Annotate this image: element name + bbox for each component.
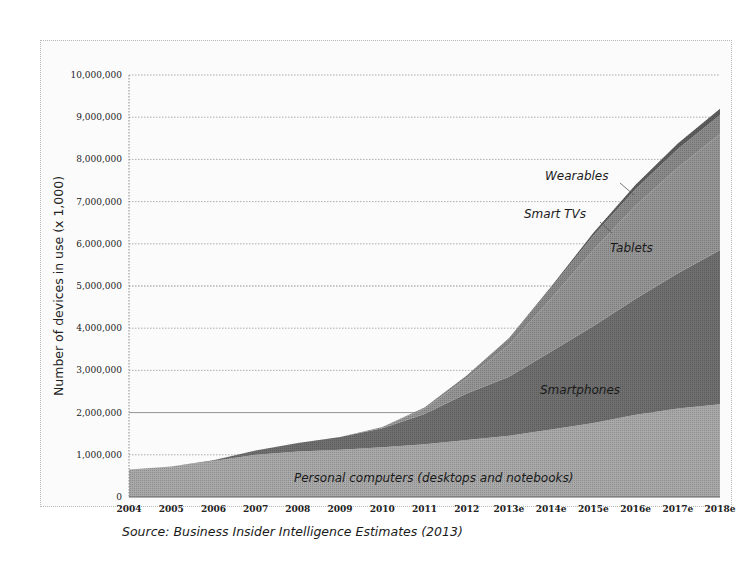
x-tick-label: 2013e — [494, 504, 525, 514]
label-smartphones: Smartphones — [540, 383, 620, 397]
y-tick-label: 5,000,000 — [76, 281, 122, 291]
y-tick-label: 2,000,000 — [76, 408, 122, 418]
x-tick-label: 2017e — [662, 504, 693, 514]
x-tick-label: 2016e — [620, 504, 651, 514]
y-tick-label: 8,000,000 — [76, 154, 122, 164]
y-tick-label: 1,000,000 — [76, 450, 122, 460]
label-tablets: Tablets — [610, 241, 653, 255]
x-tick-label: 2007 — [243, 504, 268, 514]
x-tick-label: 2005 — [159, 504, 184, 514]
label-personal-computers: Personal computers (desktops and noteboo… — [294, 471, 573, 485]
x-tick-label: 2009 — [328, 504, 353, 514]
y-tick-label: 9,000,000 — [76, 112, 122, 122]
x-tick-label: 2015e — [578, 504, 609, 514]
x-tick-label: 2006 — [201, 504, 226, 514]
stacked-area-chart: 01,000,0002,000,0003,000,0004,000,0005,0… — [0, 0, 755, 574]
y-tick-label: 0 — [116, 492, 122, 502]
x-tick-label: 2018e — [705, 504, 736, 514]
x-tick-label: 2011 — [412, 504, 437, 514]
y-tick-label: 3,000,000 — [76, 365, 122, 375]
y-tick-label: 4,000,000 — [76, 323, 122, 333]
y-tick-label: 6,000,000 — [76, 239, 122, 249]
y-tick-label: 10,000,000 — [70, 70, 122, 80]
x-tick-label: 2010 — [370, 504, 395, 514]
y-tick-label: 7,000,000 — [76, 197, 122, 207]
x-tick-label: 2014e — [536, 504, 567, 514]
data-areas — [129, 109, 720, 497]
y-axis-title: Number of devices in use (x 1,000) — [51, 176, 66, 396]
x-tick-label: 2012 — [454, 504, 479, 514]
x-tick-label: 2004 — [116, 504, 141, 514]
x-tick-label: 2008 — [285, 504, 310, 514]
label-smart-tvs: Smart TVs — [524, 207, 586, 221]
source-caption: Source: Business Insider Intelligence Es… — [122, 524, 463, 539]
label-wearables: Wearables — [545, 169, 608, 183]
